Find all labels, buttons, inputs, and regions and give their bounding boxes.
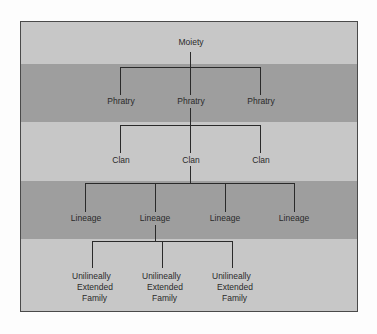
family-1-line1: Unilineally — [72, 271, 113, 282]
node-phratry-1: Phratry — [107, 97, 134, 106]
family-2-line3: Family — [142, 293, 183, 304]
family-2-line2: Extended — [142, 282, 183, 293]
node-phratry-3: Phratry — [247, 97, 274, 106]
node-moiety: Moiety — [178, 38, 203, 47]
band-phratry — [21, 64, 357, 122]
node-family-3: Unilineally Extended Family — [212, 271, 253, 304]
node-clan-3: Clan — [252, 156, 269, 165]
diagram-frame — [20, 21, 358, 312]
node-lineage-2: Lineage — [140, 214, 170, 223]
node-family-2: Unilineally Extended Family — [142, 271, 183, 304]
family-3-line1: Unilineally — [212, 271, 253, 282]
family-3-line2: Extended — [212, 282, 253, 293]
band-clan — [21, 122, 357, 181]
family-1-line2: Extended — [72, 282, 113, 293]
node-lineage-3: Lineage — [210, 214, 240, 223]
family-3-line3: Family — [212, 293, 253, 304]
family-2-line1: Unilineally — [142, 271, 183, 282]
node-family-1: Unilineally Extended Family — [72, 271, 113, 304]
band-lineage — [21, 181, 357, 239]
node-lineage-4: Lineage — [279, 214, 309, 223]
family-1-line3: Family — [72, 293, 113, 304]
node-lineage-1: Lineage — [71, 214, 101, 223]
node-clan-2: Clan — [182, 156, 199, 165]
node-clan-1: Clan — [112, 156, 129, 165]
node-phratry-2: Phratry — [177, 97, 204, 106]
